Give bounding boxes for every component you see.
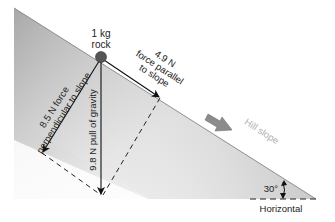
gravity-force-label: 9.8 N pull of gravity [87, 89, 98, 171]
svg-text:9.8 N pull of gravity: 9.8 N pull of gravity [87, 89, 98, 171]
rock-label: rock [92, 39, 112, 50]
horizontal-label: Horizontal [260, 203, 303, 214]
rock-icon [96, 52, 107, 63]
hill-slope-label: Hill slope [243, 116, 281, 146]
hill-slope-direction-arrow [205, 114, 232, 131]
rock-mass-label: 1 kg [92, 28, 111, 39]
force-diagram: 1 kg rock 8.5 N force perpendicular to s… [0, 0, 335, 222]
svg-text:Hill slope: Hill slope [243, 116, 281, 146]
angle-label: 30° [264, 183, 279, 194]
